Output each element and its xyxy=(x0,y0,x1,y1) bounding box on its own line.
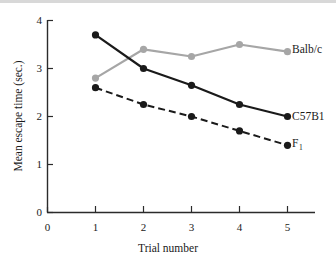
x-axis-ticks xyxy=(48,206,288,213)
chart-figure: 4 3 2 1 0 0 1 2 3 4 5 Trial number Mean … xyxy=(0,0,336,261)
legend-balb-c: Balb/c xyxy=(292,43,322,55)
series-balb-c xyxy=(92,41,291,82)
series-c57b1 xyxy=(92,31,291,120)
y-tick-label-0: 0 xyxy=(37,206,43,218)
y-tick-label-2: 2 xyxy=(37,110,43,122)
y-axis-title: Mean escape time (sec.) xyxy=(12,60,25,171)
series-f1-markers xyxy=(92,84,291,149)
legend-label-f1-base: F xyxy=(292,137,298,149)
data-point xyxy=(188,113,195,120)
data-point xyxy=(236,101,243,108)
legend-c57b1: C57B1 xyxy=(292,110,325,122)
x-axis-title: Trial number xyxy=(138,242,198,254)
data-point xyxy=(236,41,243,48)
y-tick-label-3: 3 xyxy=(37,62,43,74)
x-tick-label-2: 2 xyxy=(141,221,147,233)
x-tick-label-4: 4 xyxy=(237,221,243,233)
legend-label-balb-c: Balb/c xyxy=(292,43,322,55)
x-tick-label-5: 5 xyxy=(285,221,291,233)
x-tick-label-0: 0 xyxy=(45,221,51,233)
data-point xyxy=(140,65,147,72)
x-axis-tick-labels: 0 1 2 3 4 5 xyxy=(45,221,291,233)
data-point xyxy=(236,127,243,134)
data-point xyxy=(284,113,291,120)
y-tick-label-4: 4 xyxy=(37,14,43,26)
legend-label-f1-subscript: 1 xyxy=(299,143,303,152)
y-tick-label-1: 1 xyxy=(37,158,43,170)
series-c57b1-markers xyxy=(92,31,291,120)
x-tick-label-3: 3 xyxy=(189,221,195,233)
y-axis-tick-labels: 4 3 2 1 0 xyxy=(37,14,43,218)
line-chart-plot: 4 3 2 1 0 0 1 2 3 4 5 Trial number Mean … xyxy=(0,0,336,261)
data-point xyxy=(92,84,99,91)
data-point xyxy=(284,142,291,149)
y-axis-ticks xyxy=(48,21,54,213)
series-f1 xyxy=(92,84,291,149)
data-point xyxy=(92,75,99,82)
legend-f1: F 1 xyxy=(292,137,303,152)
series-balb-c-line xyxy=(96,45,288,79)
data-point xyxy=(92,31,99,38)
legend-label-c57b1: C57B1 xyxy=(292,110,325,122)
x-tick-label-1: 1 xyxy=(93,221,99,233)
data-point xyxy=(140,101,147,108)
data-point xyxy=(140,46,147,53)
data-point xyxy=(188,82,195,89)
data-point xyxy=(284,48,291,55)
data-point xyxy=(188,53,195,60)
